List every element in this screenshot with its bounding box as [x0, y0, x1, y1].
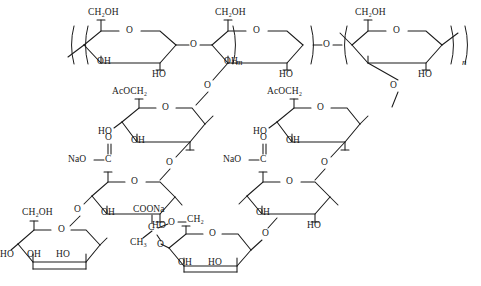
- label-ring-o-9: O: [286, 177, 293, 187]
- label-branch-o-2: O: [390, 81, 397, 91]
- label-oh-7: OH: [178, 258, 192, 268]
- label-oh-9-ring: OH: [256, 208, 270, 218]
- label-coona: COONa: [133, 205, 165, 215]
- label-ketal-c: C: [148, 223, 154, 233]
- label-ch2oh-4: CH₂OH: [22, 208, 53, 218]
- label-ch2oh-1: CH₂OH: [88, 8, 119, 18]
- label-ring-o-1: O: [126, 26, 133, 36]
- repeat-index-m: m: [236, 57, 243, 67]
- label-carbonyl-o-1: O: [105, 133, 112, 143]
- label-branch-o-5: O: [321, 158, 328, 168]
- label-ring-o-5: O: [131, 177, 138, 187]
- label-acoch2-2: AcOCH₂: [267, 87, 302, 97]
- label-carbonyl-c-2: C: [260, 155, 266, 165]
- label-ho-2: HO: [279, 70, 293, 80]
- structure-bonds: [0, 0, 481, 286]
- label-oh-5: OH: [101, 208, 115, 218]
- label-glycosidic-o-2: O: [323, 40, 330, 50]
- label-carbonyl-o-2: O: [260, 133, 267, 143]
- label-ring-o-2: O: [253, 26, 260, 36]
- label-branch-o-4: O: [74, 205, 81, 215]
- label-pyruvate-link-o: O: [262, 229, 269, 239]
- label-ho-6: HO: [0, 250, 14, 260]
- label-ketal-ch3: CH₃: [130, 238, 147, 248]
- label-carbonyl-c-1: C: [105, 155, 111, 165]
- label-ketal-o-2: O: [157, 240, 164, 250]
- label-pyruvate-ch2: CH₂: [187, 215, 204, 225]
- label-ho-8: HO: [208, 258, 222, 268]
- label-ring-o-7: O: [209, 229, 216, 239]
- label-ch2oh-2: CH₂OH: [215, 8, 246, 18]
- repeat-index-n: n: [462, 57, 467, 67]
- label-oh-1: OH: [97, 57, 111, 67]
- label-ring-o-3: O: [393, 26, 400, 36]
- label-branch-o-3: O: [166, 158, 173, 168]
- label-ho-1: HO: [152, 70, 166, 80]
- label-oh-8: OH: [286, 136, 300, 146]
- label-ring-o-6: O: [58, 225, 65, 235]
- label-ketal-o-1: O: [168, 218, 175, 228]
- label-branch-o-1: O: [204, 81, 211, 91]
- label-glycosidic-o-1: O: [190, 40, 197, 50]
- label-nao-1: NaO: [68, 155, 86, 165]
- label-ring-o-4: O: [162, 103, 169, 113]
- label-nao-2: NaO: [223, 155, 241, 165]
- label-oh-6: OH: [27, 250, 41, 260]
- label-acoch2-1: AcOCH₂: [112, 87, 147, 97]
- label-ch2oh-3: CH₂OH: [355, 8, 386, 18]
- label-oh-4: OH: [131, 136, 145, 146]
- chemical-structure-figure: CH₂OH O OH HO O CH₂OH O OH HO m O O CH₂O…: [0, 0, 481, 286]
- label-ho-10: HO: [307, 221, 321, 231]
- label-ho-7: HO: [56, 250, 70, 260]
- label-ring-o-8: O: [317, 103, 324, 113]
- label-ho-3: HO: [418, 70, 432, 80]
